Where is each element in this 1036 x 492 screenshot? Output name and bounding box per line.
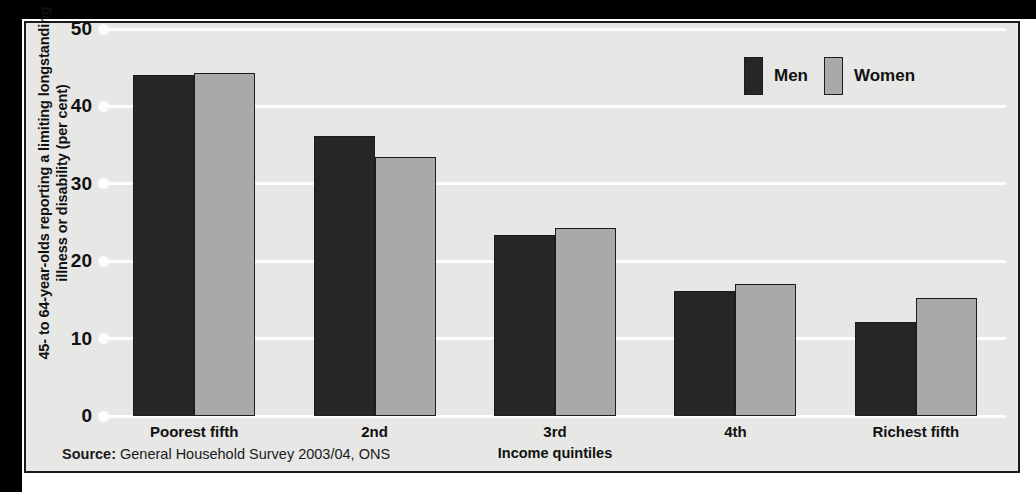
source-prefix: Source:: [62, 446, 116, 462]
axis-tick-marker: [98, 101, 109, 112]
axis-tick-marker: [98, 24, 109, 35]
legend-swatch-women-icon: [824, 57, 843, 95]
source-note: Source: General Household Survey 2003/04…: [62, 446, 390, 462]
axis-tick-marker: [98, 411, 109, 422]
legend-label-men: Men: [774, 66, 808, 86]
bar-men[interactable]: [314, 136, 375, 416]
bar-men[interactable]: [855, 322, 916, 416]
source-text: General Household Survey 2003/04, ONS: [116, 446, 390, 462]
bar-men[interactable]: [674, 291, 735, 416]
bar-men[interactable]: [494, 235, 555, 416]
y-axis-tick-label: 30: [71, 173, 92, 195]
y-axis-tick-label: 40: [71, 95, 92, 117]
chart-figure: 45- to 64-year-olds reporting a limiting…: [0, 0, 1036, 492]
bar-women[interactable]: [735, 284, 796, 416]
y-axis-tick-label: 50: [71, 18, 92, 40]
x-axis-tick-label: 4th: [724, 423, 747, 440]
bar-women[interactable]: [194, 73, 255, 416]
legend-label-women: Women: [854, 66, 915, 86]
y-axis-tick-label: 0: [81, 405, 92, 427]
x-axis-title: Income quintiles: [498, 445, 612, 461]
legend-item-women[interactable]: Women: [824, 57, 915, 95]
gridline: [104, 28, 1006, 31]
axis-tick-marker: [98, 256, 109, 267]
left-black-band: [0, 0, 22, 492]
bar-women[interactable]: [555, 228, 616, 416]
top-black-band: [0, 0, 1036, 19]
x-axis-tick-label: Poorest fifth: [150, 423, 238, 440]
x-axis-tick-label: Richest fifth: [872, 423, 959, 440]
y-axis-title: 45- to 64-year-olds reporting a limiting…: [35, 0, 71, 378]
y-axis-tick-label: 20: [71, 250, 92, 272]
bar-women[interactable]: [375, 157, 436, 416]
bar-women[interactable]: [916, 298, 977, 416]
axis-tick-marker: [98, 178, 109, 189]
chart-panel: 45- to 64-year-olds reporting a limiting…: [24, 21, 1020, 473]
x-axis-tick-label: 3rd: [543, 423, 566, 440]
y-axis-tick-label: 10: [71, 328, 92, 350]
x-axis-tick-label: 2nd: [361, 423, 388, 440]
axis-tick-marker: [98, 333, 109, 344]
chart-legend: Men Women: [744, 57, 915, 95]
legend-swatch-men-icon: [744, 57, 763, 95]
bar-men[interactable]: [133, 75, 194, 416]
legend-item-men[interactable]: Men: [744, 57, 808, 95]
